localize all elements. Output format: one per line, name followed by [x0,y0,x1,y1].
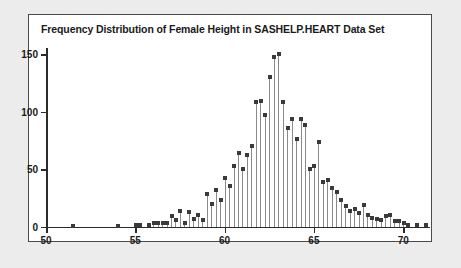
needle-bar [135,224,136,226]
y-axis-tick [41,112,46,114]
needle-marker [156,221,160,225]
needle-bar [73,225,74,226]
needle-bar [341,200,342,226]
needle-marker [277,52,281,56]
needle-marker [205,192,209,196]
needle-marker [388,213,392,217]
needle-marker [335,190,339,194]
needle-bar [426,224,427,226]
needle-marker [357,211,361,215]
needle-marker [406,223,410,227]
y-axis-tick [41,54,46,56]
needle-bar [417,224,418,226]
needle-bar [350,212,351,227]
needle-marker [241,167,245,171]
needle-bar [234,167,235,227]
needle-bar [305,125,306,226]
needle-marker [116,224,120,228]
needle-marker [147,223,151,227]
needle-bar [251,146,252,226]
x-axis-line [46,227,430,229]
needle-bar [238,153,239,227]
needle-bar [149,224,150,226]
needle-bar [278,54,279,226]
needle-marker [228,184,232,188]
needle-marker [326,178,330,182]
needle-marker [303,123,307,127]
needle-bar [207,194,208,226]
needle-bar [318,143,319,227]
y-axis-tick-label: 150 [21,49,38,60]
needle-marker [290,117,294,121]
needle-bar [211,205,212,227]
needle-marker [170,214,174,218]
needle-marker [201,218,205,222]
needle-bar [314,167,315,227]
needle-marker [286,126,290,130]
needle-marker [384,214,388,218]
needle-marker [178,209,182,213]
needle-bar [376,220,377,227]
needle-bar [283,102,284,226]
needle-marker [232,164,236,168]
x-axis-tick [135,228,137,233]
needle-bar [345,207,346,227]
x-axis-tick-label: 65 [308,235,319,246]
needle-bar [158,223,159,226]
needle-marker [219,198,223,202]
needle-marker [281,100,285,104]
y-axis-tick-label: 100 [21,106,38,117]
needle-marker [71,224,75,228]
x-axis-tick-label: 50 [40,235,51,246]
needle-bar [171,216,172,226]
y-axis-line [46,48,48,228]
needle-bar [229,186,230,226]
needle-marker [268,75,272,79]
needle-bar [269,77,270,226]
needle-marker [312,164,316,168]
needle-marker [272,55,276,59]
x-axis-tick-label: 70 [398,235,409,246]
needle-bar [216,191,217,227]
x-axis-tick [46,228,48,233]
needle-bar [220,200,221,226]
needle-marker [183,221,187,225]
needle-bar [167,223,168,226]
y-axis-tick-label: 50 [27,164,38,175]
needle-bar [323,183,324,227]
needle-marker [223,176,227,180]
needle-bar [202,221,203,227]
needle-bar [336,192,337,226]
needle-marker [339,198,343,202]
needle-bar [327,181,328,227]
needle-marker [174,218,178,222]
x-axis-tick [403,228,405,233]
needle-marker [210,202,214,206]
needle-marker [299,117,303,121]
needle-bar [184,223,185,226]
needle-bar [140,224,141,226]
page-title: Frequency Distribution of Female Height … [41,23,384,35]
needle-bar [354,209,355,226]
needle-bar [180,212,181,227]
needle-marker [245,153,249,157]
needle-marker [379,218,383,222]
needle-marker [254,100,258,104]
needle-bar [403,223,404,226]
needle-marker [317,140,321,144]
needle-marker [353,207,357,211]
needle-bar [390,215,391,226]
needle-bar [363,206,364,227]
needle-marker [362,203,366,207]
needle-bar [247,155,248,226]
needle-bar [332,189,333,227]
needle-marker [330,186,334,190]
needle-marker [138,223,142,227]
needle-bar [198,215,199,226]
needle-marker [344,204,348,208]
needle-marker [375,217,379,221]
needle-marker [397,219,401,223]
needle-bar [367,215,368,226]
chart-frame: Frequency Distribution of Female Height … [28,14,432,242]
needle-marker [348,209,352,213]
